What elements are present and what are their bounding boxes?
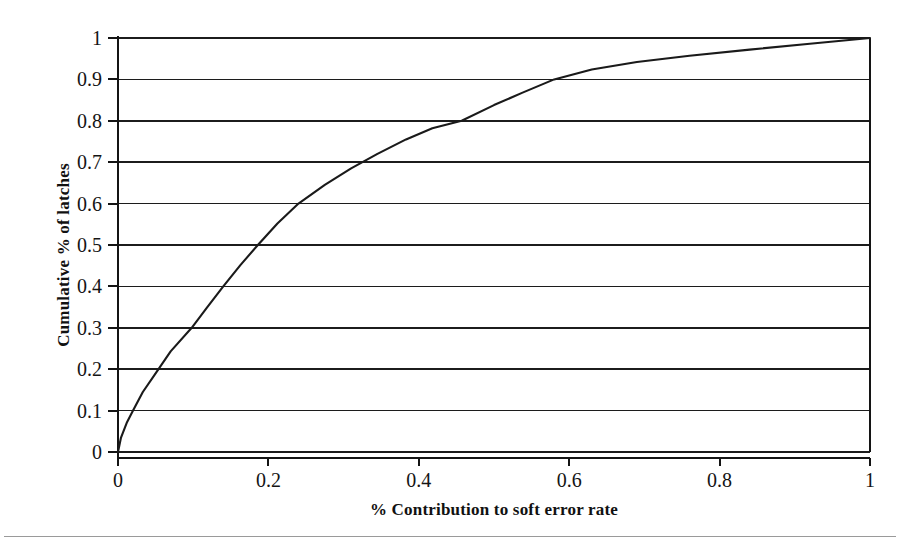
- y-axis-title: Cumulative % of latches: [54, 105, 74, 405]
- y-tick-label: 0.3: [77, 318, 102, 338]
- x-tick-label: 1: [865, 470, 875, 490]
- x-tick-label: 0.6: [557, 470, 582, 490]
- y-tick-label: 0.1: [77, 401, 102, 421]
- y-tick-label: 0.6: [77, 194, 102, 214]
- y-tick-label: 1: [92, 28, 102, 48]
- x-tick-label: 0.4: [406, 470, 431, 490]
- y-tick-label: 0.7: [77, 152, 102, 172]
- page-divider-rule: [4, 536, 896, 537]
- x-tick-label: 0.2: [256, 470, 281, 490]
- y-tick-label: 0.9: [77, 69, 102, 89]
- x-tick-label: 0.8: [707, 470, 732, 490]
- y-tick-label: 0.2: [77, 359, 102, 379]
- chart-figure: 0 0.1 0.2 0.3 0.4 0.5 0.6 0.7 0.8 0.9 1 …: [0, 0, 900, 550]
- y-tick-label: 0: [92, 442, 102, 462]
- x-axis: [118, 458, 870, 466]
- plot-area: [0, 0, 900, 550]
- axis-spines: [118, 36, 870, 462]
- x-axis-title: % Contribution to soft error rate: [118, 500, 870, 520]
- y-tick-label: 0.4: [77, 276, 102, 296]
- gridlines-horizontal: [118, 38, 870, 452]
- y-axis-ticks: [108, 38, 118, 452]
- y-tick-label: 0.8: [77, 111, 102, 131]
- y-tick-label: 0.5: [77, 235, 102, 255]
- x-tick-label: 0: [113, 470, 123, 490]
